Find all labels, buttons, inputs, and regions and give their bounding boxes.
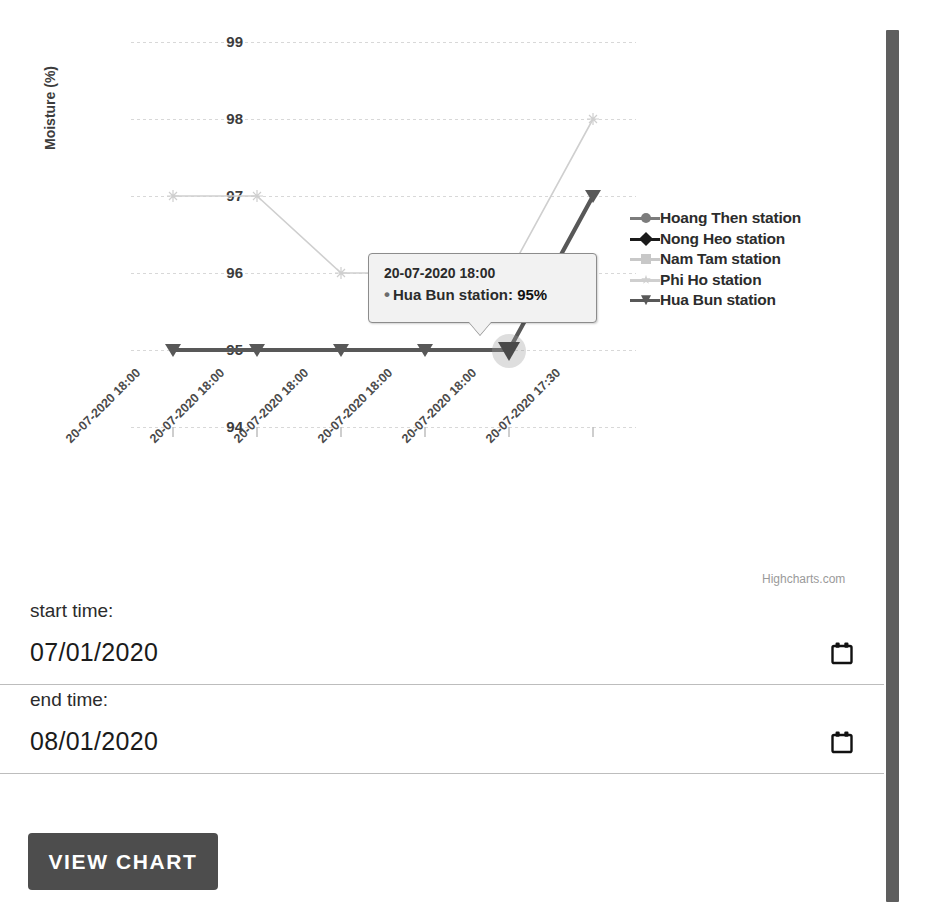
tooltip-date: 20-07-2020 18:00 (384, 263, 596, 283)
legend-item-nam-tam[interactable]: Nam Tam station (630, 249, 865, 270)
end-calendar-icon[interactable] (829, 729, 855, 755)
circle-marker-icon (630, 209, 660, 227)
end-time-input[interactable]: 08/01/2020 (30, 727, 158, 756)
legend-item-nong-heo[interactable]: Nong Heo station (630, 229, 865, 250)
end-time-label: end time: (30, 689, 108, 711)
chart-tooltip: 20-07-2020 18:00 •Hua Bun station: 95% (368, 253, 597, 323)
tooltip-bullet-icon: • (384, 285, 390, 304)
legend-label-hoang-then: Hoang Then station (660, 209, 801, 227)
form-actions: VIEW CHART (0, 828, 884, 898)
square-marker-icon (630, 250, 660, 268)
tooltip-series-name: Hua Bun station (393, 286, 508, 303)
highcharts-credit[interactable]: Highcharts.com (762, 572, 845, 586)
legend-item-hoang-then[interactable]: Hoang Then station (630, 208, 865, 229)
tooltip-separator: : (508, 286, 517, 303)
vertical-scrollbar-thumb[interactable] (886, 30, 899, 902)
tooltip-pointer (469, 322, 491, 335)
legend-label-nam-tam: Nam Tam station (660, 250, 781, 268)
start-time-label: start time: (30, 600, 113, 622)
tooltip-series-row: •Hua Bun station: 95% (384, 283, 596, 307)
view-chart-button[interactable]: VIEW CHART (28, 833, 218, 890)
chart-legend: Hoang Then station Nong Heo station Nam … (630, 208, 865, 311)
start-calendar-icon[interactable] (829, 640, 855, 666)
legend-label-hua-bun: Hua Bun station (660, 291, 776, 309)
tooltip-value: 95% (517, 286, 547, 303)
legend-item-hua-bun[interactable]: Hua Bun station (630, 290, 865, 311)
series-line-phi-ho (173, 119, 593, 273)
start-time-field[interactable]: start time: 07/01/2020 (0, 596, 884, 685)
legend-item-phi-ho[interactable]: Phi Ho station (630, 270, 865, 291)
end-time-field[interactable]: end time: 08/01/2020 (0, 685, 884, 774)
page-root: Moisture (%) 99 98 97 96 95 94 (0, 0, 927, 918)
legend-label-phi-ho: Phi Ho station (660, 271, 761, 289)
legend-label-nong-heo: Nong Heo station (660, 230, 785, 248)
diamond-marker-icon (630, 230, 660, 248)
date-range-form: start time: 07/01/2020 end time: 08/01/2… (0, 596, 884, 774)
triangle-down-marker-icon (630, 291, 660, 309)
moisture-chart: Moisture (%) 99 98 97 96 95 94 (0, 0, 884, 600)
start-time-input[interactable]: 07/01/2020 (30, 638, 158, 667)
star-marker-icon (630, 271, 660, 289)
